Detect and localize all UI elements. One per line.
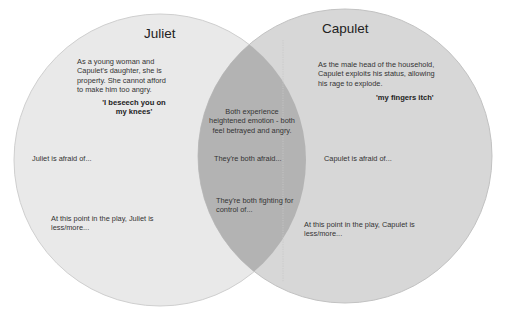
juliet-quote-line: 'I beseech you on xyxy=(98,98,170,107)
juliet-afraid: Juliet is afraid of... xyxy=(32,154,92,163)
juliet-description: As a young woman and Capulet's daughter,… xyxy=(77,57,166,95)
juliet-point-line: less/more... xyxy=(51,223,154,232)
juliet-point-in-play: At this point in the play, Juliet is les… xyxy=(51,214,154,233)
juliet-title: Juliet xyxy=(144,26,176,41)
overlap-emotion: Both experience heightened emotion - bot… xyxy=(205,107,299,135)
capulet-quote: 'my fingers itch' xyxy=(376,93,434,102)
capulet-description: As the male head of the household, Capul… xyxy=(318,60,435,88)
overlap-afraid: They're both afraid... xyxy=(214,154,282,163)
overlap-fighting-line: They're both fighting for xyxy=(216,196,293,205)
overlap-fighting: They're both fighting for control of... xyxy=(216,196,293,215)
juliet-description-line: As a young woman and xyxy=(77,57,166,66)
juliet-quote-line: my knees' xyxy=(98,107,170,116)
capulet-title: Capulet xyxy=(322,21,369,36)
capulet-point-line: At this point in the play, Capulet is xyxy=(304,220,415,229)
overlap-fighting-line: control of... xyxy=(216,205,293,214)
juliet-description-line: property. She cannot afford xyxy=(77,76,166,85)
overlap-emotion-line: feel betrayed and angry. xyxy=(205,126,299,135)
juliet-description-line: Capulet's daughter, she is xyxy=(77,66,166,75)
capulet-afraid: Capulet is afraid of... xyxy=(324,154,392,163)
capulet-description-line: Capulet exploits his status, allowing xyxy=(318,69,435,78)
juliet-description-line: to make him too angry. xyxy=(77,85,166,94)
juliet-quote: 'I beseech you on my knees' xyxy=(98,98,170,117)
capulet-point-line: less/more... xyxy=(304,229,415,238)
juliet-point-line: At this point in the play, Juliet is xyxy=(51,214,154,223)
overlap-emotion-line: heightened emotion - both xyxy=(205,116,299,125)
capulet-description-line: As the male head of the household, xyxy=(318,60,435,69)
capulet-description-line: his rage to explode. xyxy=(318,79,435,88)
overlap-emotion-line: Both experience xyxy=(205,107,299,116)
capulet-point-in-play: At this point in the play, Capulet is le… xyxy=(304,220,415,239)
